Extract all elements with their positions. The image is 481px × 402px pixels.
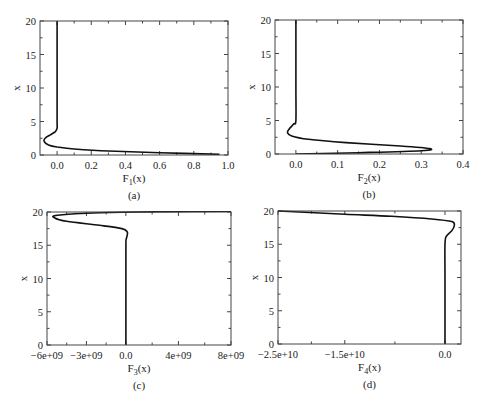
x-tick-label: 0.0 (438, 349, 451, 360)
y-tick-label: 5 (269, 306, 274, 317)
panel-b-frame (275, 20, 463, 154)
panel-d-xlabel: F4(x) (358, 361, 381, 376)
panel-d: 05101520 −2.5e+10−1.5e+100.0 x F4(x) (d) (248, 206, 461, 391)
y-tick-label: 15 (26, 50, 37, 61)
y-tick-label: 0 (266, 149, 271, 160)
y-tick-label: 5 (38, 307, 43, 318)
panel-a-caption: (a) (128, 189, 141, 202)
panel-c: 05101520 −6e+09−3e+090.04e+098e+09 x F3(… (17, 207, 244, 392)
figure-canvas: 05101520 0.00.20.40.60.81.0 x F1(x) (a) … (0, 0, 481, 402)
panel-b-xlabel: F2(x) (358, 171, 381, 186)
x-tick-label: 0.4 (119, 160, 133, 171)
panel-b-yticks: 05101520 (261, 15, 464, 160)
x-tick-label: 0.2 (85, 160, 98, 171)
x-tick-label: −3e+09 (70, 350, 102, 361)
panel-b-curve (287, 20, 431, 154)
panel-c-frame (47, 212, 231, 345)
panel-d-yticks: 05101520 (264, 206, 462, 350)
x-tick-label: 0.0 (51, 160, 64, 171)
panel-d-caption: (d) (363, 378, 376, 391)
panel-a-xlabel: F1(x) (123, 172, 146, 187)
panel-b: 05101520 0.00.10.20.30.4 x F2(x) (b) (245, 15, 470, 201)
x-tick-label: −1.5e+10 (325, 349, 365, 360)
x-tick-label: 0.0 (119, 350, 132, 361)
panel-d-curve (278, 211, 454, 344)
panel-c-xlabel: F3(x) (128, 362, 151, 377)
panel-d-ylabel: x (248, 274, 260, 280)
y-tick-label: 15 (264, 239, 275, 250)
y-tick-label: 10 (261, 82, 272, 93)
y-tick-label: 20 (33, 207, 44, 218)
x-tick-label: 0.3 (415, 159, 428, 170)
y-tick-label: 5 (31, 117, 36, 128)
panel-a-curve (44, 21, 219, 154)
panel-b-caption: (b) (363, 188, 376, 201)
y-tick-label: 10 (26, 83, 37, 94)
x-tick-label: 1.0 (221, 160, 234, 171)
y-tick-label: 10 (33, 274, 44, 285)
panel-a-frame (40, 21, 228, 155)
panel-b-ylabel: x (245, 84, 257, 90)
panel-a: 05101520 0.00.20.40.60.81.0 x F1(x) (a) (10, 16, 235, 202)
panel-a-ylabel: x (10, 85, 22, 91)
x-tick-label: 0.8 (187, 160, 200, 171)
x-tick-label: 0.2 (373, 159, 386, 170)
x-tick-label: 4e+09 (165, 350, 191, 361)
panel-c-caption: (c) (133, 379, 146, 392)
panel-a-yticks: 05101520 (26, 16, 229, 161)
x-tick-label: 0.0 (289, 159, 302, 170)
y-tick-label: 10 (264, 273, 275, 284)
x-tick-label: −6e+09 (31, 350, 63, 361)
y-tick-label: 0 (31, 150, 36, 161)
panel-d-xticks: −2.5e+10−1.5e+100.0 (258, 211, 452, 360)
y-tick-label: 15 (33, 240, 44, 251)
panel-d-frame (278, 211, 461, 344)
y-tick-label: 20 (26, 16, 37, 27)
panel-c-yticks: 05101520 (33, 207, 232, 351)
x-tick-label: 8e+09 (218, 350, 244, 361)
y-tick-label: 5 (266, 116, 271, 127)
y-tick-label: 20 (261, 15, 272, 26)
y-tick-label: 20 (264, 206, 275, 217)
x-tick-label: 0.4 (456, 159, 470, 170)
panel-c-curve (53, 211, 231, 345)
x-tick-label: 0.1 (331, 159, 344, 170)
x-tick-label: 0.6 (153, 160, 166, 171)
panel-b-xticks: 0.00.10.20.30.4 (289, 20, 470, 170)
y-tick-label: 15 (261, 49, 272, 60)
x-tick-label: −2.5e+10 (258, 349, 298, 360)
panel-c-xticks: −6e+09−3e+090.04e+098e+09 (31, 212, 244, 361)
panel-c-ylabel: x (17, 275, 29, 281)
